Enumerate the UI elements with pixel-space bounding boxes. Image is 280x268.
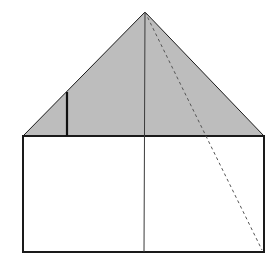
shaded-triangle xyxy=(23,12,264,136)
rectangle-base xyxy=(23,136,264,252)
geometry-figure xyxy=(0,0,280,268)
diagram-canvas xyxy=(0,0,280,268)
